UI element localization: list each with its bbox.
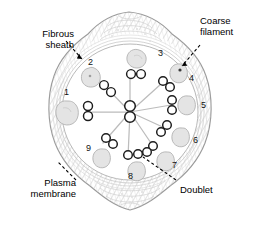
doublet-number-8: 8: [128, 172, 133, 181]
label-plasma-membrane-line1: Plasma: [2, 177, 76, 188]
label-coarse-filament: Coarse filament: [200, 15, 258, 37]
doublet-number-7: 7: [172, 161, 177, 170]
label-fibrous-sheath-line2: sheath: [14, 39, 74, 50]
doublet-number-3: 3: [158, 49, 163, 58]
coarse-filament-6: [172, 128, 190, 147]
label-plasma-membrane-line2: membrane: [2, 188, 76, 199]
doublet-number-6: 6: [193, 136, 198, 145]
doublet-number-1: 1: [64, 88, 69, 97]
coarse-filament-1: [56, 101, 78, 125]
label-doublet: Doublet: [180, 184, 238, 195]
coarse-filament-9: [93, 149, 111, 168]
doublet-number-5: 5: [201, 101, 206, 110]
label-fibrous-sheath-line1: Fibrous: [14, 28, 74, 39]
label-plasma-membrane: Plasma membrane: [2, 177, 76, 199]
doublet-3: [127, 49, 147, 78]
label-coarse-filament-line2: filament: [200, 26, 258, 37]
coarse-filament-3: [127, 49, 146, 68]
coarse-filament-5: [178, 96, 196, 115]
doublet-number-9: 9: [86, 144, 91, 153]
coarse-filament-2: [81, 67, 100, 87]
label-fibrous-sheath: Fibrous sheath: [14, 28, 74, 50]
coarse-filament-4: [170, 64, 188, 83]
label-doublet-line1: Doublet: [180, 184, 238, 195]
doublet-number-4: 4: [189, 74, 194, 83]
doublet-number-2: 2: [88, 58, 93, 67]
label-coarse-filament-line1: Coarse: [200, 15, 258, 26]
doublet-5: [168, 96, 196, 115]
